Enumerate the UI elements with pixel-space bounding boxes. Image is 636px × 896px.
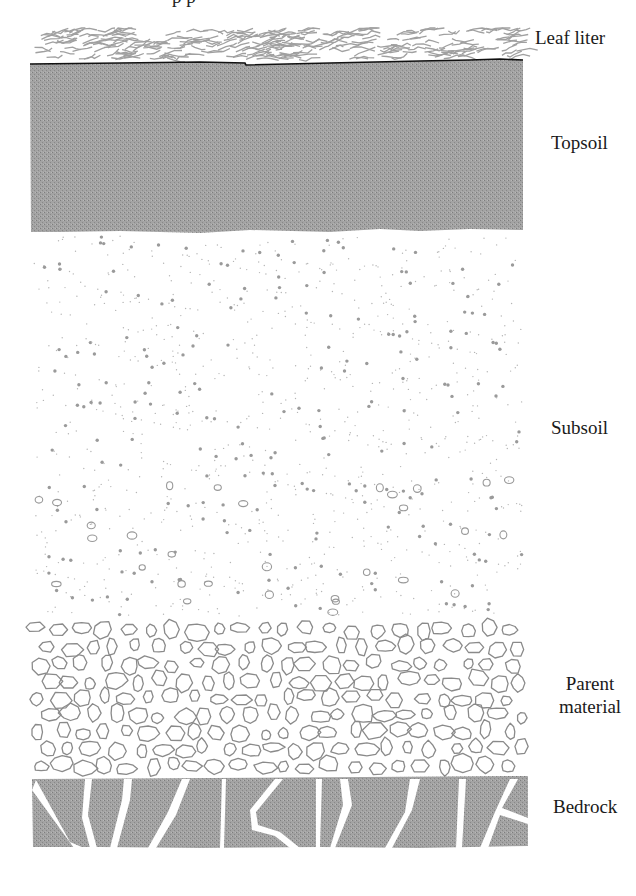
label-bedrock: Bedrock — [553, 795, 617, 818]
label-topsoil: Topsoil — [551, 131, 608, 154]
cropped-title-text: p p — [172, 0, 196, 8]
subsoil-layer — [34, 235, 524, 616]
label-subsoil: Subsoil — [551, 416, 608, 439]
soil-profile-diagram — [0, 0, 636, 896]
label-leaf-litter: Leaf liter — [535, 26, 605, 49]
label-parent-line1: Parent — [544, 672, 636, 695]
parent-material-layer — [26, 618, 528, 776]
label-parent-material: Parent material — [544, 672, 636, 718]
topsoil-layer — [30, 59, 523, 233]
bedrock-layer — [32, 776, 528, 848]
leaf-litter-layer — [34, 28, 537, 62]
label-parent-line2: material — [544, 695, 636, 718]
